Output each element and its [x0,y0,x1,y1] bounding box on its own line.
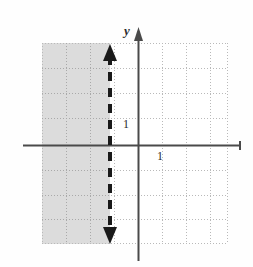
x-unit-tick-label: 1 [157,150,163,162]
coordinate-plane-svg [0,0,253,267]
graph-figure: y 1 1 [0,0,253,267]
y-unit-tick-label: 1 [123,118,129,130]
y-axis-label: y [124,24,130,37]
shaded-region [42,43,110,244]
